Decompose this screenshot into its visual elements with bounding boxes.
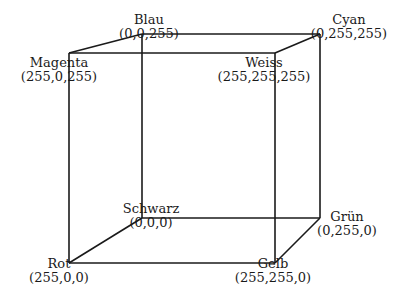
vertex-rgb: (0,255,255): [311, 27, 387, 41]
vertex-name: Rot: [29, 257, 89, 271]
vertex-name: Grün: [317, 210, 377, 224]
vertex-rgb: (255,255,255): [218, 70, 311, 84]
vertex-rgb: (255,0,255): [21, 70, 97, 84]
vertex-rgb: (255,0,0): [29, 271, 89, 285]
vertex-label-blau: Blau (0,0,255): [119, 13, 179, 41]
vertex-label-schwarz: Schwarz (0,0,0): [123, 202, 180, 230]
vertex-rgb: (0,0,0): [123, 216, 180, 230]
vertex-name: Magenta: [21, 56, 97, 70]
vertex-name: Gelb: [235, 257, 311, 271]
vertex-name: Schwarz: [123, 202, 180, 216]
vertex-label-gelb: Gelb (255,255,0): [235, 257, 311, 285]
vertex-rgb: (0,0,255): [119, 27, 179, 41]
vertex-label-cyan: Cyan (0,255,255): [311, 13, 387, 41]
vertex-name: Blau: [119, 13, 179, 27]
vertex-name: Cyan: [311, 13, 387, 27]
vertex-rgb: (0,255,0): [317, 224, 377, 238]
vertex-label-weiss: Weiss (255,255,255): [218, 56, 311, 84]
vertex-label-gruen: Grün (0,255,0): [317, 210, 377, 238]
vertex-name: Weiss: [218, 56, 311, 70]
vertex-rgb: (255,255,0): [235, 271, 311, 285]
vertex-label-rot: Rot (255,0,0): [29, 257, 89, 285]
vertex-label-magenta: Magenta (255,0,255): [21, 56, 97, 84]
